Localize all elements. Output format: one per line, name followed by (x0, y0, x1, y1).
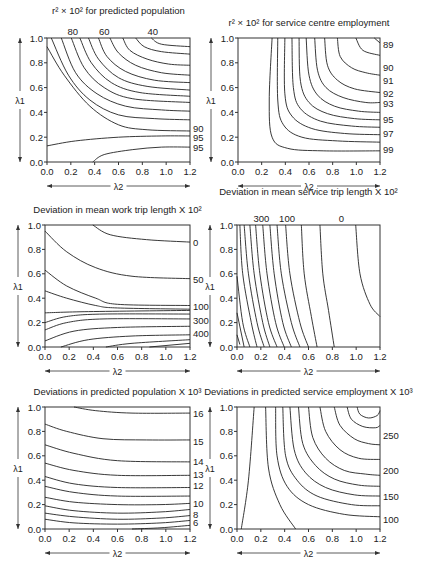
contour-line (45, 497, 190, 505)
y-tick-label: 0.8 (30, 57, 43, 68)
y-tick-label: 0.2 (220, 499, 233, 510)
contour-line (61, 38, 190, 111)
contour-label: 90 (383, 62, 394, 73)
y-tick-label: 0.4 (30, 107, 43, 118)
contour-label: 250 (383, 430, 399, 441)
x-tick-label: 1.0 (350, 351, 363, 362)
arrow-down-icon (208, 524, 212, 529)
x-tick-label: 1.2 (373, 533, 386, 544)
panel-title: r² × 10² for service centre employment (229, 17, 390, 28)
y-axis-label: λ1 (206, 96, 216, 106)
x-tick-label: 1.0 (159, 351, 172, 362)
contour-label: 16 (193, 408, 204, 419)
y-axis-label: λ1 (13, 282, 23, 292)
x-tick-label: 0.8 (135, 351, 148, 362)
y-tick-label: 1.0 (28, 220, 41, 231)
contour-line (286, 225, 309, 347)
x-tick-label: 0.4 (278, 533, 291, 544)
panel-title: Deviation in mean work trip length X 10² (33, 204, 201, 215)
contour-panel-1: r² × 10² for predicted population0.00.20… (15, 5, 203, 192)
contour-line (356, 225, 380, 317)
x-tick-label: 0.0 (40, 166, 53, 177)
contour-line (306, 38, 380, 112)
y-tick-label: 1.0 (220, 220, 233, 231)
arrow-up-icon (16, 225, 20, 230)
x-axis-label: λ2 (113, 367, 123, 377)
y-tick-label: 0.6 (220, 268, 233, 279)
arrow-right-icon (185, 369, 190, 373)
y-tick-label: 0.2 (30, 132, 43, 143)
x-tick-label: 0.0 (230, 533, 243, 544)
contour-label: 99 (383, 144, 394, 155)
x-tick-label: 0.0 (38, 351, 51, 362)
arrow-left-icon (45, 551, 50, 555)
x-tick-label: 1.0 (159, 533, 172, 544)
contour-panel-6: Deviations in predicted service employme… (204, 386, 413, 559)
arrow-up-icon (208, 407, 212, 412)
arrow-left-icon (237, 551, 242, 555)
y-axis-label: λ1 (13, 464, 23, 474)
x-axis-label: λ2 (113, 549, 123, 559)
contour-line (45, 477, 190, 488)
contour-panel-4: Deviation in mean service trip length X … (205, 186, 398, 377)
y-tick-label: 0.6 (28, 450, 41, 461)
contour-line (45, 231, 190, 279)
contour-line (284, 38, 380, 135)
x-tick-label: 0.8 (135, 533, 148, 544)
x-tick-label: 0.6 (302, 533, 315, 544)
arrow-right-icon (375, 369, 380, 373)
contour-panel-3: Deviation in mean work trip length X 10²… (13, 204, 209, 377)
contour-line (357, 407, 380, 418)
x-tick-label: 0.2 (63, 533, 76, 544)
contour-label: 97 (383, 128, 394, 139)
contour-line (301, 225, 317, 347)
contour-label: 6 (193, 517, 198, 528)
arrow-left-icon (45, 369, 50, 373)
contour-line (45, 463, 190, 476)
x-tick-label: 1.2 (373, 166, 386, 177)
contour-label: 100 (193, 301, 209, 312)
arrow-up-icon (208, 225, 212, 230)
x-tick-label: 0.2 (255, 166, 268, 177)
contour-line (45, 506, 190, 513)
contour-line (93, 225, 190, 242)
y-tick-label: 0.2 (220, 317, 233, 328)
y-tick-label: 0.6 (221, 82, 234, 93)
contour-label: 50 (193, 274, 204, 285)
x-tick-label: 0.0 (38, 533, 51, 544)
arrow-left-icon (47, 184, 52, 188)
arrow-down-icon (209, 157, 213, 162)
x-tick-label: 0.4 (88, 166, 101, 177)
arrow-left-icon (237, 369, 242, 373)
x-tick-label: 0.4 (279, 166, 292, 177)
contour-line (334, 407, 380, 445)
contour-label: 93 (383, 98, 394, 109)
y-tick-label: 0.4 (220, 475, 233, 486)
contour-line (315, 38, 380, 103)
contour-label: 0 (339, 213, 344, 224)
x-tick-label: 0.2 (64, 166, 77, 177)
y-tick-label: 1.0 (28, 402, 41, 413)
contour-label: 13 (193, 469, 204, 480)
y-tick-label: 0.4 (28, 293, 41, 304)
contour-line (45, 519, 190, 524)
contour-line (237, 313, 244, 347)
contour-line (270, 225, 291, 347)
x-tick-label: 0.4 (278, 351, 291, 362)
x-tick-label: 0.6 (111, 351, 124, 362)
y-tick-label: 0.4 (221, 107, 234, 118)
contour-label: 60 (99, 26, 110, 37)
y-tick-label: 1.0 (220, 402, 233, 413)
y-tick-label: 0.6 (30, 82, 43, 93)
contour-figure: r² × 10² for predicted population0.00.20… (0, 0, 426, 563)
y-tick-label: 0.8 (220, 244, 233, 255)
x-tick-label: 0.8 (326, 166, 339, 177)
contour-line (74, 407, 190, 413)
contour-line (240, 225, 257, 347)
x-axis-label: λ2 (114, 182, 124, 192)
y-tick-label: 0.4 (28, 475, 41, 486)
contour-label: 300 (253, 213, 269, 224)
arrow-down-icon (16, 342, 20, 347)
arrow-right-icon (375, 551, 380, 555)
contour-line (347, 407, 380, 428)
